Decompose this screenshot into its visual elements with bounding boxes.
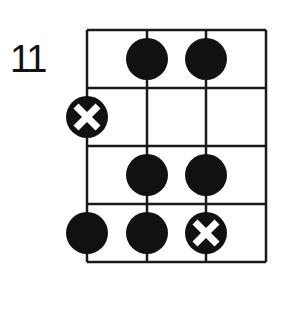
fretboard-grid: [0, 0, 292, 335]
finger-dot-icon: [126, 38, 168, 80]
finger-dot-icon: [66, 212, 108, 254]
finger-dot-icon: [126, 154, 168, 196]
x-marker-icon: [185, 212, 227, 254]
finger-dot-icon: [126, 212, 168, 254]
finger-dot-icon: [185, 38, 227, 80]
x-marker-icon: [66, 96, 108, 138]
finger-dot-icon: [185, 154, 227, 196]
